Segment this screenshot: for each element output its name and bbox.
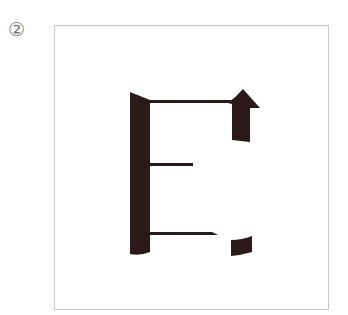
left-vertical-stroke	[130, 92, 150, 255]
arrow-head-top-right	[228, 89, 260, 142]
letter-e-diagram	[0, 0, 348, 315]
middle-horizontal-stroke	[150, 163, 193, 166]
bottom-right-block	[231, 236, 252, 256]
top-horizontal-stroke	[150, 100, 234, 103]
bottom-horizontal-stroke	[150, 232, 218, 235]
